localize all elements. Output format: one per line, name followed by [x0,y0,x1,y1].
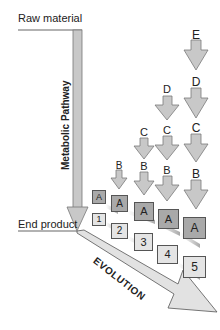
step-label-e: E [184,28,208,42]
product-box-5: 5 [183,256,206,278]
product-box-4: 4 [157,245,178,264]
product-box-2: 2 [111,223,128,239]
enzyme-box-a: A [183,217,206,239]
step-label-b: B [132,160,156,172]
product-box-3: 3 [134,233,153,251]
step-label-b: B [184,167,208,181]
step-arrow-icon [155,96,179,201]
step-label-b: B [155,164,179,176]
enzyme-box-a: A [92,190,106,204]
product-box-1: 1 [92,213,106,226]
raw-material-label: Raw material [18,12,82,24]
enzyme-box-a: A [134,202,154,221]
step-label-d: D [155,83,179,95]
step-label-c: C [155,124,179,136]
step-label-d: D [184,75,208,89]
step-label-b: B [107,160,131,171]
metabolic-pathway-label: Metabolic Pathway [60,81,71,170]
enzyme-box-a: A [111,195,128,212]
end-product-label: End product [18,218,77,230]
step-label-c: C [184,121,208,135]
enzyme-box-a: A [158,209,179,229]
step-label-c: C [132,126,156,138]
step-arrow-icon [111,170,127,189]
